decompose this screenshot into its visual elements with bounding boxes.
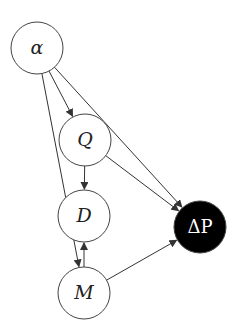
node-label: M bbox=[73, 281, 94, 303]
node-label: α bbox=[31, 36, 44, 58]
edge-M-to-dP bbox=[107, 240, 177, 280]
node-label: Q bbox=[77, 128, 93, 150]
node-dP: ΔP bbox=[174, 201, 226, 253]
nodes: αQDMΔP bbox=[11, 22, 226, 319]
node-M: M bbox=[58, 267, 110, 319]
node-alpha: α bbox=[11, 22, 63, 74]
node-label: D bbox=[75, 204, 91, 226]
node-Q: Q bbox=[59, 114, 111, 166]
edges bbox=[42, 67, 182, 280]
causal-diagram: αQDMΔP bbox=[0, 0, 240, 334]
edge-alpha-to-Q bbox=[49, 71, 72, 116]
node-D: D bbox=[58, 190, 110, 242]
node-label: ΔP bbox=[187, 216, 212, 237]
